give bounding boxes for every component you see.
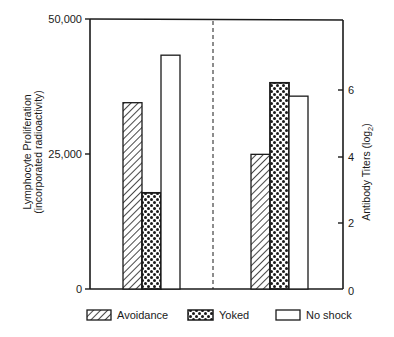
legend-label-no-shock: No shock	[306, 309, 352, 321]
hatch-swatch-icon	[87, 310, 111, 320]
bar-no-shock-antibody	[289, 96, 308, 289]
legend: Avoidance Yoked No shock	[87, 309, 352, 321]
right-tick-2: 2	[348, 217, 354, 229]
bar-yoked-antibody	[270, 83, 289, 289]
bar-yoked-proliferation	[142, 193, 161, 289]
bar-avoidance-antibody	[251, 154, 270, 289]
right-axis-label: Antibody Titers (log2)	[360, 123, 375, 221]
top-frame-line	[90, 19, 343, 20]
legend-item-no-shock: No shock	[276, 309, 352, 321]
left-tick-50000: 50,000	[48, 13, 82, 25]
legend-label-avoidance: Avoidance	[117, 309, 168, 321]
right-tick-6: 6	[348, 84, 354, 96]
chart: 50,000 25,000 0 Lymphocyte Proliferation…	[0, 0, 394, 337]
empty-swatch-icon	[276, 310, 300, 320]
bar-no-shock-proliferation	[161, 55, 180, 289]
bars	[123, 55, 308, 289]
legend-item-yoked: Yoked	[188, 309, 249, 321]
left-tick-0: 0	[76, 283, 82, 295]
right-tick-0: 0	[348, 285, 354, 297]
legend-item-avoidance: Avoidance	[87, 309, 168, 321]
bar-avoidance-proliferation	[123, 103, 142, 289]
left-axis: 50,000 25,000 0 Lymphocyte Proliferation…	[21, 13, 90, 295]
left-axis-label-line2: (incorporated radioactivity)	[32, 90, 44, 214]
legend-label-yoked: Yoked	[219, 309, 249, 321]
left-tick-25000: 25,000	[48, 148, 82, 160]
dots-swatch-icon	[188, 310, 213, 320]
right-tick-4: 4	[348, 151, 354, 163]
